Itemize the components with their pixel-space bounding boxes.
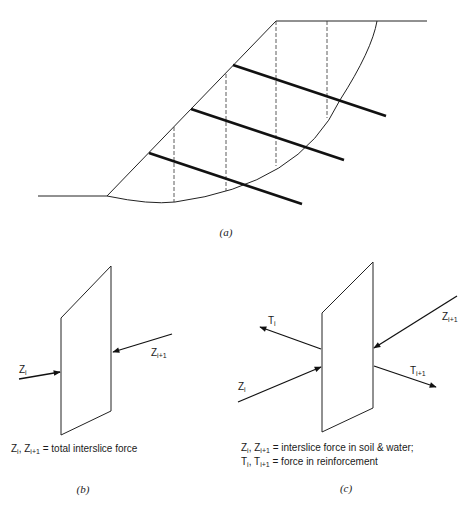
label-zi-b: Zi <box>19 364 27 376</box>
arrow-zi-c <box>238 367 321 402</box>
arrow-zi1-c <box>374 296 457 348</box>
figure-canvas: (a) Zi Zi+1 Zi, Zi+1 = total interslice … <box>0 0 476 508</box>
slip-surface-arc <box>107 21 377 203</box>
arrow-zi1-b <box>113 334 172 352</box>
label-zi1-c: Zi+1 <box>442 311 458 323</box>
reinforcement-layer-upper <box>233 65 386 116</box>
label-ti1-c: Ti+1 <box>410 365 426 377</box>
slice-c <box>322 262 373 432</box>
label-ti-c: Ti <box>268 315 276 327</box>
panel-a-caption: (a) <box>220 226 233 239</box>
panel-a-slope-diagram: (a) <box>38 21 427 239</box>
panel-b-caption: (b) <box>77 483 90 496</box>
arrow-ti1-c <box>374 366 436 387</box>
panel-b-slice-free-body: Zi Zi+1 Zi, Zi+1 = total interslice forc… <box>11 266 172 496</box>
panel-c-caption: (c) <box>340 482 353 495</box>
reinforcement-layer-middle <box>191 109 344 160</box>
reinforcement-layer-lower <box>149 153 302 204</box>
panel-c-reinforced-slice-free-body: Ti Zi Zi+1 Ti+1 Zi, Zi+1 = interslice fo… <box>238 262 458 495</box>
slice-b <box>61 266 111 435</box>
legend-c-line2: Ti, Ti+1 = force in reinforcement <box>241 456 378 468</box>
label-zi1-b: Zi+1 <box>151 347 167 359</box>
label-zi-c: Zi <box>238 381 246 393</box>
arrow-ti-c <box>260 327 321 349</box>
legend-b: Zi, Zi+1 = total interslice force <box>11 443 138 455</box>
legend-c-line1: Zi, Zi+1 = interslice force in soil & wa… <box>241 442 414 454</box>
